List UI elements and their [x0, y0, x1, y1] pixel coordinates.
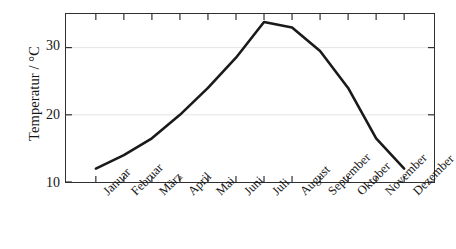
x-tick-label-juni: Juni — [242, 174, 266, 198]
x-axis-tick-labels: JanuarFebruarMärzAprilMaiJuniJuliAugustS… — [0, 0, 456, 249]
x-tick-label-text: August — [298, 163, 333, 198]
x-tick-label-januar: Januar — [101, 166, 133, 198]
x-tick-label-april: April — [186, 170, 214, 198]
x-tick-label-text: Mai — [214, 175, 238, 199]
x-tick-label-august: August — [298, 163, 333, 198]
x-tick-label-text: Juli — [270, 176, 292, 198]
x-tick-label-mai: Mai — [214, 175, 238, 199]
x-tick-label-text: April — [186, 170, 214, 198]
x-tick-label-text: Juni — [242, 174, 266, 198]
x-tick-label-juli: Juli — [270, 176, 292, 198]
temperature-line-chart: Temperatur / °C 30 20 10 JanuarFebruarMä… — [0, 0, 456, 249]
x-tick-label-text: Januar — [101, 166, 133, 198]
